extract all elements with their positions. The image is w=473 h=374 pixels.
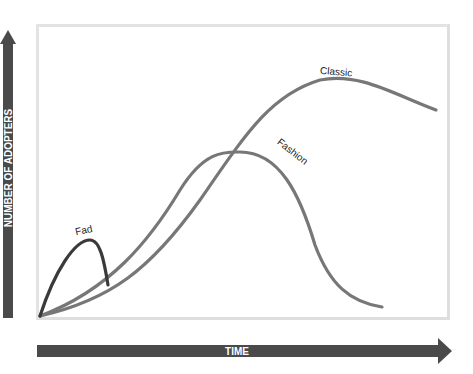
fad-label: Fad <box>74 223 93 237</box>
y-axis-label: NUMBER OF ADOPTERS <box>3 108 14 227</box>
x-axis-label: TIME <box>225 346 249 357</box>
chart-canvas: Fad Fashion Classic TIME NUMBER OF ADOPT… <box>0 0 473 374</box>
classic-curve <box>40 78 436 316</box>
classic-label: Classic <box>320 65 353 79</box>
fashion-label: Fashion <box>275 136 310 167</box>
